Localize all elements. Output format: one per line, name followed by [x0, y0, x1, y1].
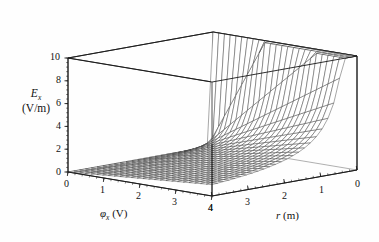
z-axis-title: Ex (V/m): [22, 88, 50, 114]
y-axis-tick-label: 0: [355, 179, 360, 189]
x-axis-tick-label: 2: [136, 191, 141, 201]
x-axis-tick-label: 1: [100, 185, 105, 195]
y-axis-tick-label: 4: [208, 203, 213, 213]
z-axis-tick-label: 0: [56, 167, 61, 177]
x-axis-tick-label: 3: [172, 197, 177, 207]
y-axis-tick-label: 3: [245, 197, 250, 207]
z-axis-tick-label: 10: [50, 52, 60, 62]
z-axis-tick-label: 6: [56, 98, 61, 108]
z-axis-symbol: E: [31, 87, 38, 99]
x-axis-subscript: x: [106, 213, 109, 222]
x-axis-unit: (V): [112, 207, 127, 219]
z-axis-tick-label: 4: [56, 121, 61, 131]
surface-plot-figure: Ex (V/m) φx (V) r (m) 10864200123443210: [0, 0, 379, 242]
surface-mesh: [68, 32, 357, 185]
x-axis-tick-label: 0: [64, 179, 69, 189]
x-axis-title: φx (V): [100, 208, 127, 222]
y-axis-symbol: r: [276, 209, 280, 221]
z-axis-tick-label: 8: [56, 75, 61, 85]
z-axis-tick-label: 2: [56, 144, 61, 154]
y-axis-tick-label: 2: [282, 191, 287, 201]
y-axis-unit: (m): [283, 209, 299, 221]
y-axis-tick-label: 1: [319, 185, 324, 195]
z-axis-unit: (V/m): [22, 103, 50, 115]
y-axis-title: r (m): [276, 210, 299, 221]
z-axis-subscript: x: [38, 93, 41, 102]
